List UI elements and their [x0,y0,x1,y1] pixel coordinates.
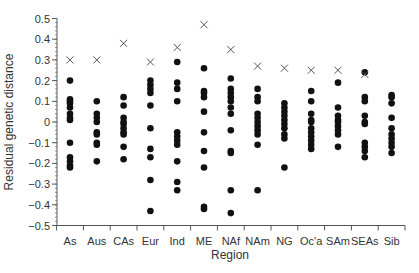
y-axis: 0.50.40.30.20.10−0.1−0.2−0.3−0.4−0.5 [28,13,57,232]
cross-marker [67,56,74,63]
data-point [362,154,369,161]
data-point [388,94,395,101]
y-tick-label: −0.1 [28,137,50,149]
data-point [147,125,154,132]
data-point [201,65,208,72]
data-point [254,141,261,148]
data-point [362,148,369,155]
data-point [281,135,288,142]
data-point [201,206,208,213]
data-point [67,104,74,111]
data-point [228,75,235,82]
data-point [120,156,127,163]
x-tick-label: Sib [384,235,400,247]
x-tick-label: CAs [113,235,134,247]
data-point [147,208,154,215]
cross-marker [308,67,315,74]
data-point [174,86,181,93]
data-point [335,131,342,138]
data-point [308,146,315,153]
data-point [388,144,395,151]
y-tick-label: 0.4 [35,33,50,45]
data-point [67,164,74,171]
data-point [120,144,127,151]
y-axis-title: Residual genetic distance [2,53,16,190]
data-point [388,100,395,107]
data-point [228,98,235,105]
data-point [67,117,74,124]
data-point [254,131,261,138]
data-point [308,88,315,95]
x-axis-title: Region [211,248,249,262]
x-tick-label: Ind [170,235,185,247]
data-point [67,77,74,84]
data-point [228,127,235,134]
data-point [174,158,181,165]
data-point [201,148,208,155]
data-point [228,110,235,117]
x-tick-label: As [64,235,77,247]
data-point [94,158,101,165]
data-point [147,177,154,184]
x-tick-label: NG [276,235,293,247]
data-point [281,164,288,171]
data-point [147,154,154,161]
data-point [94,131,101,138]
data-point [120,102,127,109]
data-point [388,125,395,132]
x-tick-label: NAm [245,235,269,247]
data-point [94,119,101,126]
data-point [254,86,261,93]
data-point [120,94,127,101]
x-tick-label: Eur [142,235,159,247]
data-point [174,79,181,86]
data-point [201,164,208,171]
data-point [362,121,369,128]
data-point [174,98,181,105]
y-tick-label: −0.5 [28,220,50,232]
data-point [388,150,395,157]
data-point [228,104,235,111]
data-point [201,94,208,101]
data-point [254,187,261,194]
cross-marker [281,65,288,72]
data-point [388,115,395,122]
data-point [308,98,315,105]
cross-marker [120,40,127,47]
data-point [362,98,369,105]
cross-marker [174,44,181,51]
x-axis: AsAusCAsEurIndMENAfNAmNGOc'aSAmSEAsSib [57,226,405,247]
data-point [174,59,181,66]
data-point [147,146,154,153]
cross-marker [201,21,208,28]
data-point [67,139,74,146]
y-tick-label: 0.1 [35,95,50,107]
data-point [228,210,235,217]
data-point [228,187,235,194]
data-point [174,179,181,186]
data-point [281,125,288,132]
data-point [228,150,235,157]
data-point [94,98,101,105]
cross-marker [227,46,234,53]
cross-marker [93,56,100,63]
scatter-chart: AsAusCAsEurIndMENAfNAmNGOc'aSAmSEAsSib 0… [0,0,419,273]
y-tick-label: 0.3 [35,54,50,66]
x-tick-label: SEAs [351,235,379,247]
data-point [201,108,208,115]
data-point [201,129,208,136]
x-tick-label: Aus [87,235,106,247]
data-point [335,144,342,151]
cross-marker [254,63,261,70]
x-tick-label: SAm [326,235,350,247]
y-tick-label: −0.2 [28,157,50,169]
data-point [308,110,315,117]
data-point [120,131,127,138]
y-tick-label: 0.2 [35,75,50,87]
data-point [174,141,181,148]
plot-points [67,21,395,216]
cross-marker [335,67,342,74]
y-tick-label: 0.5 [35,13,50,25]
data-point [308,119,315,126]
data-point [335,79,342,86]
